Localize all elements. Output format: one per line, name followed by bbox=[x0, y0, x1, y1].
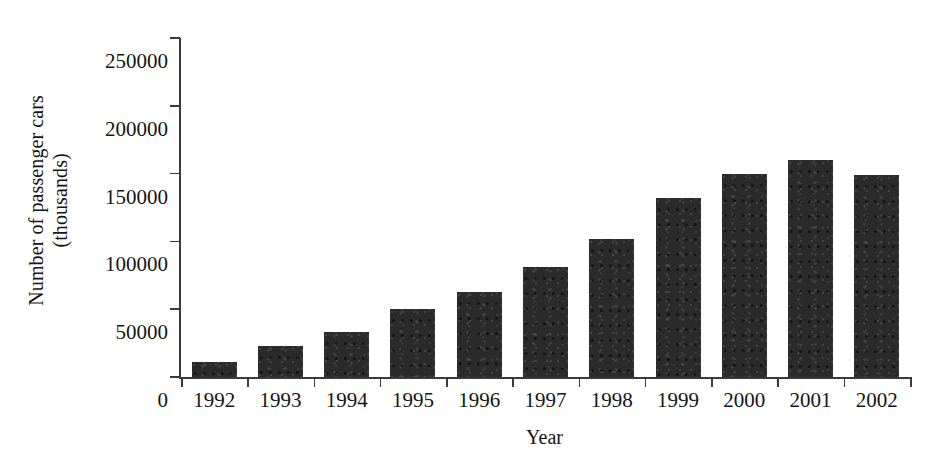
bar-slot bbox=[711, 24, 777, 377]
y-axis-tick bbox=[170, 173, 180, 175]
y-axis-tick-label: 100000 bbox=[105, 254, 168, 275]
bar bbox=[192, 362, 237, 377]
x-axis-tick-label: 1992 bbox=[181, 390, 247, 411]
x-axis-tick-label: 1996 bbox=[446, 390, 512, 411]
bar-slot bbox=[645, 24, 711, 377]
y-axis-tick-label: 50000 bbox=[116, 322, 169, 343]
bar-slot bbox=[579, 24, 645, 377]
bar bbox=[390, 309, 435, 377]
bar-slot bbox=[181, 24, 247, 377]
bar bbox=[854, 175, 899, 377]
bar bbox=[258, 346, 303, 377]
x-axis-tick-label: 1997 bbox=[512, 390, 578, 411]
bar bbox=[788, 160, 833, 377]
bar-slot bbox=[314, 24, 380, 377]
x-axis-tick-label: 1998 bbox=[579, 390, 645, 411]
x-axis-tick-label: 1995 bbox=[380, 390, 446, 411]
x-axis-tick-label: 2002 bbox=[844, 390, 910, 411]
x-axis-title: Year bbox=[179, 426, 910, 449]
y-axis-tick-label: 250000 bbox=[105, 51, 168, 72]
x-axis-tick-label: 2001 bbox=[777, 390, 843, 411]
bar bbox=[589, 239, 634, 377]
y-axis-tick bbox=[170, 241, 180, 243]
plot-area bbox=[179, 24, 910, 379]
x-axis-tick-label: 1994 bbox=[314, 390, 380, 411]
x-axis-tick-label: 1999 bbox=[645, 390, 711, 411]
y-axis-tick-label: 150000 bbox=[105, 187, 168, 208]
bar bbox=[656, 198, 701, 377]
bar-slot bbox=[844, 24, 910, 377]
bar-slot bbox=[446, 24, 512, 377]
bar-slot bbox=[777, 24, 843, 377]
bar-slot bbox=[512, 24, 578, 377]
bar-slot bbox=[247, 24, 313, 377]
bar-slot bbox=[380, 24, 446, 377]
y-axis-tick-label: 0 bbox=[158, 390, 169, 411]
bar bbox=[523, 267, 568, 377]
y-axis-tick bbox=[170, 37, 180, 39]
x-axis-tick-label: 1993 bbox=[247, 390, 313, 411]
bars-layer bbox=[181, 24, 910, 379]
x-axis-tick bbox=[910, 377, 912, 387]
bar bbox=[457, 292, 502, 377]
y-axis-tick bbox=[170, 308, 180, 310]
y-axis-tick bbox=[170, 376, 180, 378]
x-axis-tick-labels: 1992199319941995199619971998199920002001… bbox=[179, 390, 910, 420]
y-axis-tick-labels: 050000100000150000200000250000 bbox=[0, 24, 168, 379]
bar bbox=[324, 332, 369, 377]
y-axis-tick bbox=[170, 105, 180, 107]
y-axis-tick-label: 200000 bbox=[105, 119, 168, 140]
bar-chart-figure: Number of passenger cars (thousands) 050… bbox=[0, 0, 925, 471]
x-axis-tick-label: 2000 bbox=[711, 390, 777, 411]
bar bbox=[722, 174, 767, 377]
